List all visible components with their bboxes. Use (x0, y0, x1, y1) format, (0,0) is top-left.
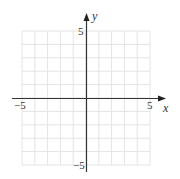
coordinate-plane: y x 5 −5 −5 5 (0, 0, 180, 179)
x-axis-label: x (162, 101, 169, 115)
y-axis-label: y (91, 9, 98, 23)
y-tick-label-min: −5 (73, 159, 85, 171)
y-axis-arrow-icon (84, 13, 90, 21)
x-tick-label-min: −5 (14, 99, 26, 111)
x-tick-label-max: 5 (147, 99, 153, 111)
y-tick-label-max: 5 (78, 25, 84, 37)
